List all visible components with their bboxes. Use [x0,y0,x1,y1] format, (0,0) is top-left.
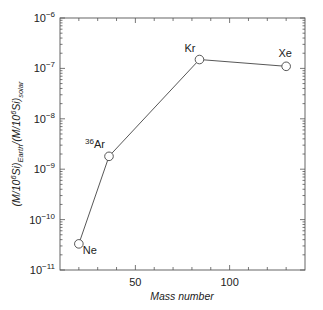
y-axis-ticks: 10−610−710−810−910−1010−11 [29,10,305,276]
point-label: Kr [184,42,195,54]
data-series: Ne36ArKrXe [75,42,292,256]
y-tick-label: 10−9 [34,161,56,175]
y-tick-label: 10−10 [29,212,55,226]
data-point-ne [75,240,84,249]
chart: 10−610−710−810−910−1010−11 50100 Ne36ArK… [0,0,323,310]
x-axis-title: Mass number [150,290,214,302]
y-tick-label: 10−8 [34,111,56,125]
y-tick-label: 10−11 [30,262,56,276]
y-axis-title: (M/106Si)Earth/(M/106Si)solar [9,81,25,206]
point-label: Ne [83,244,97,256]
data-point-ar [105,152,114,161]
point-label: 36Ar [85,137,105,150]
x-tick-label: 50 [129,276,141,288]
data-point-kr [195,55,204,64]
point-label: Xe [278,47,291,59]
y-tick-label: 10−7 [34,60,56,74]
x-tick-label: 100 [220,276,238,288]
data-point-xe [282,62,291,71]
y-tick-label: 10−6 [34,10,56,24]
